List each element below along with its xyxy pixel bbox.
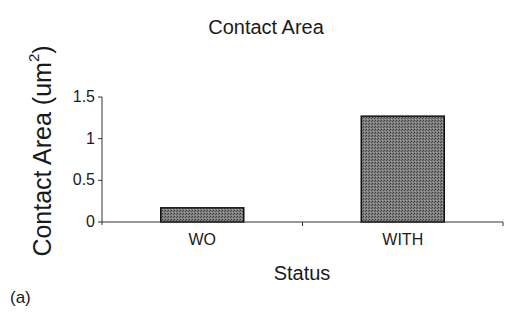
- y-tick-label: 0.5: [55, 171, 95, 189]
- bar-with: [361, 116, 444, 222]
- plot-area: [0, 0, 532, 330]
- y-ticks-group: [98, 97, 102, 222]
- panel-label: (a): [10, 288, 31, 308]
- y-tick-label: 1.5: [55, 88, 95, 106]
- y-tick-label: 0: [55, 213, 95, 231]
- x-category-label: WITH: [382, 231, 423, 249]
- x-category-label: WO: [188, 231, 216, 249]
- y-tick-label: 1: [55, 130, 95, 148]
- bars-group: [161, 116, 445, 222]
- x-axis-label: Status: [274, 262, 331, 285]
- bar-wo: [161, 208, 244, 222]
